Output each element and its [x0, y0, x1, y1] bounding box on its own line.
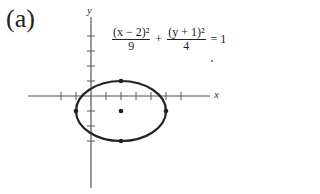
fraction-y-term: (y + 1)² 4 [167, 26, 205, 53]
co-vertex-top [119, 79, 124, 84]
vertex-left [74, 109, 79, 114]
fraction-x-term: (x − 2)² 9 [112, 26, 150, 53]
period-dot [211, 60, 213, 62]
co-vertex-bottom [119, 139, 124, 144]
ellipse-equation: (x − 2)² 9 + (y + 1)² 4 = 1 [110, 26, 229, 53]
center-point [119, 109, 124, 114]
vertex-right [164, 109, 169, 114]
x-axis-label: x [214, 88, 219, 100]
plus-sign: + [155, 32, 162, 47]
y-axis-label: y [87, 4, 92, 16]
equals-one: = 1 [211, 32, 227, 47]
